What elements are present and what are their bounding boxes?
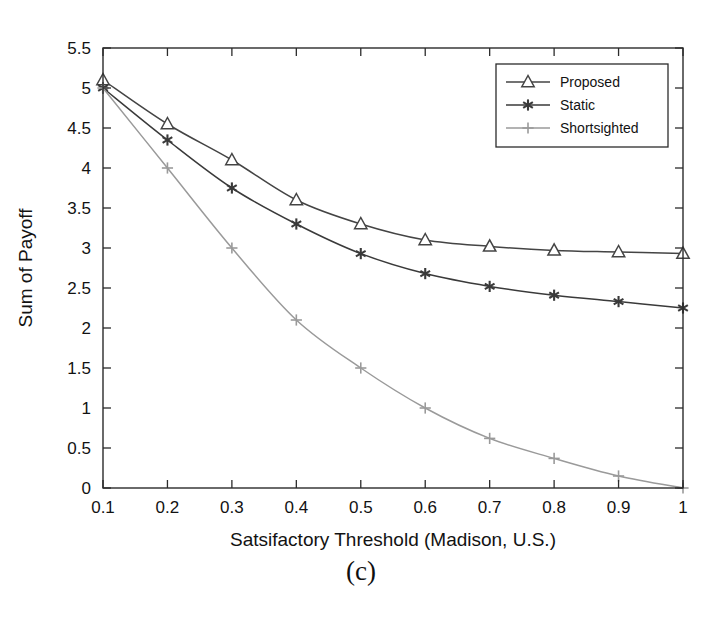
x-axis-label: Satsifactory Threshold (Madison, U.S.) — [230, 529, 556, 550]
x-tick-label: 0.5 — [349, 498, 373, 517]
legend-label: Static — [560, 97, 595, 113]
y-tick-label: 3.5 — [67, 199, 91, 218]
x-tick-label: 0.8 — [542, 498, 566, 517]
payoff-line-chart: 00.511.522.533.544.555.50.10.20.30.40.50… — [0, 0, 722, 556]
y-tick-label: 5.5 — [67, 39, 91, 58]
legend-label: Shortsighted — [560, 120, 639, 136]
y-tick-label: 3 — [82, 239, 91, 258]
legend-label: Proposed — [560, 74, 620, 90]
y-tick-label: 2.5 — [67, 279, 91, 298]
x-tick-label: 0.9 — [607, 498, 631, 517]
y-tick-label: 2 — [82, 319, 91, 338]
x-tick-label: 0.6 — [413, 498, 437, 517]
y-axis-label: Sum of Payoff — [15, 208, 36, 328]
figure-caption: (c) — [0, 556, 722, 587]
y-tick-label: 1 — [82, 399, 91, 418]
chart-legend: ProposedStaticShortsighted — [496, 64, 668, 147]
y-tick-label: 1.5 — [67, 359, 91, 378]
figure-panel: 00.511.522.533.544.555.50.10.20.30.40.50… — [0, 0, 722, 622]
y-tick-label: 4.5 — [67, 119, 91, 138]
y-tick-label: 4 — [82, 159, 91, 178]
x-tick-label: 0.3 — [220, 498, 244, 517]
x-tick-label: 0.1 — [91, 498, 115, 517]
x-tick-label: 0.4 — [285, 498, 309, 517]
x-tick-label: 0.2 — [156, 498, 180, 517]
y-tick-label: 0 — [82, 479, 91, 498]
y-tick-label: 5 — [82, 79, 91, 98]
x-tick-label: 0.7 — [478, 498, 502, 517]
y-tick-label: 0.5 — [67, 439, 91, 458]
x-tick-label: 1 — [678, 498, 687, 517]
